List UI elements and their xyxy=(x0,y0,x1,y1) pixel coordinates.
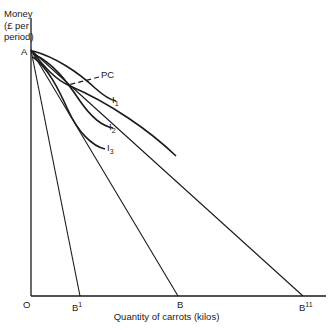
y-axis-title: Money (£ per period) xyxy=(4,8,34,43)
i1-sub: 1 xyxy=(115,100,119,107)
x-tick-label-b11-sup: 11 xyxy=(305,301,312,308)
i2-sub: 2 xyxy=(112,127,116,134)
y-axis-title-line-3: period) xyxy=(4,31,34,43)
point-a-label: A xyxy=(21,46,27,58)
chart-canvas xyxy=(0,0,333,330)
indifference-curve-1-label: I1 xyxy=(112,94,119,109)
price-consumption-curve xyxy=(31,50,176,156)
indifference-curve-2 xyxy=(33,54,113,128)
x-axis-title: Quantity of carrots (kilos) xyxy=(0,311,333,323)
y-axis-title-line-1: Money xyxy=(4,8,34,20)
y-axis-title-line-2: (£ per xyxy=(4,20,34,32)
x-tick-label-b1: B1 xyxy=(72,299,82,314)
x-tick-label-b11: B11 xyxy=(299,299,313,314)
x-tick-label-b: B xyxy=(177,299,183,311)
budget-line-b xyxy=(31,50,178,296)
indifference-curve-figure: Money (£ per period) Quantity of carrots… xyxy=(0,0,333,330)
indifference-curve-2-label: I2 xyxy=(109,121,116,136)
origin-label: O xyxy=(23,299,30,311)
i3-sub: 3 xyxy=(110,148,114,155)
x-tick-label-b1-sup: 1 xyxy=(78,301,82,308)
pc-curve-label: PC xyxy=(101,69,114,81)
indifference-curve-3-label: I3 xyxy=(107,142,114,157)
